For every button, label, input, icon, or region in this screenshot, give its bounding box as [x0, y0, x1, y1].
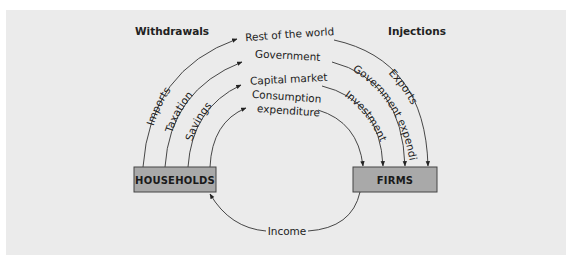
rest-of-world-label: Rest of the world — [245, 25, 335, 43]
income-flow-arrow — [210, 194, 266, 231]
expenditure-label: expenditure — [257, 102, 321, 118]
income-flow-right — [308, 192, 360, 231]
firms-label: FIRMS — [377, 175, 413, 186]
circular-flow-diagram: Withdrawals Injections Rest of the world… — [0, 0, 570, 261]
withdrawals-heading: Withdrawals — [135, 25, 209, 37]
households-label: HOUSEHOLDS — [135, 175, 215, 186]
income-label: Income — [268, 225, 307, 237]
consumption-to-firms-flow-arrow — [318, 110, 363, 166]
capital-market-label: Capital market — [250, 71, 328, 87]
firms-box: FIRMS — [353, 167, 437, 192]
injections-heading: Injections — [388, 25, 446, 37]
government-label: Government — [255, 47, 321, 62]
consumption-flow-arrow — [210, 108, 246, 167]
households-box: HOUSEHOLDS — [134, 167, 216, 192]
government-expenditure-label: Government expenditure — [0, 0, 420, 161]
